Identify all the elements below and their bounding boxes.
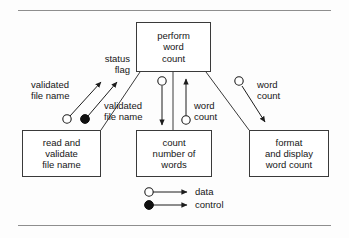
couple-label-status-flag: status flag [78,53,130,75]
data-couple-marker [145,188,153,196]
legend-arrow-data [145,188,187,196]
legend-arrow-control [145,201,187,210]
module-line: number of [153,148,196,159]
couple-label-line: status [78,53,130,64]
couple-label-line: flag [78,64,130,75]
couple-label-word-count-up: word count [194,100,217,122]
data-couple-marker [158,77,166,85]
module-perform-word-count[interactable]: perform word count [136,22,211,72]
structure-chart-figure: perform word count read and validate fil… [0,0,349,238]
module-line: count [162,53,185,64]
couple-label-validated-file-name-up: validated file name [31,79,70,101]
module-line: count [162,137,185,148]
couple-label-line: validated [31,79,70,90]
module-format-and-display-word-count[interactable]: format and display word count [249,130,329,177]
module-line: word [163,41,184,52]
couple-label-line: count [257,90,280,101]
couple-label-line: validated [104,100,143,111]
module-line: word count [266,159,312,170]
module-line: perform [157,30,190,41]
couple-label-line: file name [104,111,143,122]
couple-word-count-up [182,79,190,124]
control-couple-marker [81,115,90,124]
module-line: validate [45,148,78,159]
module-read-and-validate-file-name[interactable]: read and validate file name [22,130,101,177]
couple-label-word-count-right: word count [257,79,280,101]
module-count-number-of-words[interactable]: count number of words [136,130,212,177]
module-line: and display [265,148,313,159]
couple-label-line: file name [31,90,70,101]
data-couple-marker [63,115,71,123]
module-line: read and [43,137,81,148]
data-couple-marker [182,116,190,124]
couple-label-validated-file-name-down: validated file name [104,100,143,122]
couple-label-line: count [194,111,217,122]
couple-label-line: word [257,79,280,90]
couple-validated-file-name-down [158,77,166,125]
module-line: file name [42,159,81,170]
couple-label-line: word [194,100,217,111]
module-line: words [161,159,186,170]
data-couple-marker [235,77,243,85]
legend-label-control: control [195,199,224,211]
control-couple-marker [145,201,154,210]
module-line: format [276,137,303,148]
legend-label-data: data [195,186,214,198]
